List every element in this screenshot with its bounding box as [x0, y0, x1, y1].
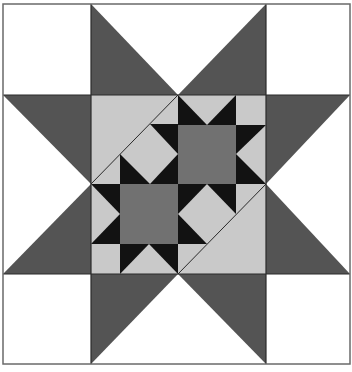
quilt-block-diagram — [0, 0, 352, 372]
upper-right-star-center — [178, 125, 236, 184]
figure-caption — [80, 366, 300, 372]
lower-left-star-center — [120, 184, 178, 244]
